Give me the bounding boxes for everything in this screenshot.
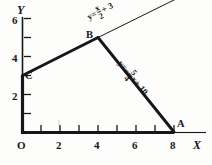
- point-label-c: C: [25, 71, 33, 82]
- scan-artifact: [58, 120, 60, 125]
- point-label-a: A: [177, 119, 185, 130]
- y-tick-label-6: 6: [12, 15, 18, 26]
- segment-cb: [23, 38, 99, 76]
- y-axis-ticks: [24, 19, 31, 114]
- x-axis-label: X: [193, 139, 201, 151]
- origin-label: O: [17, 140, 26, 151]
- x-tick-label-4: 4: [94, 140, 100, 151]
- x-tick-label-6: 6: [132, 140, 138, 151]
- y-tick-label-4: 4: [12, 53, 18, 64]
- x-tick-label-2: 2: [56, 140, 62, 151]
- x-axis-ticks: [41, 125, 174, 131]
- y-axis-label: Y: [17, 4, 24, 16]
- y-tick-label-2: 2: [12, 91, 18, 102]
- point-label-b: B: [86, 30, 93, 41]
- x-tick-label-8: 8: [170, 140, 176, 151]
- coordinate-plane-figure: [0, 0, 212, 165]
